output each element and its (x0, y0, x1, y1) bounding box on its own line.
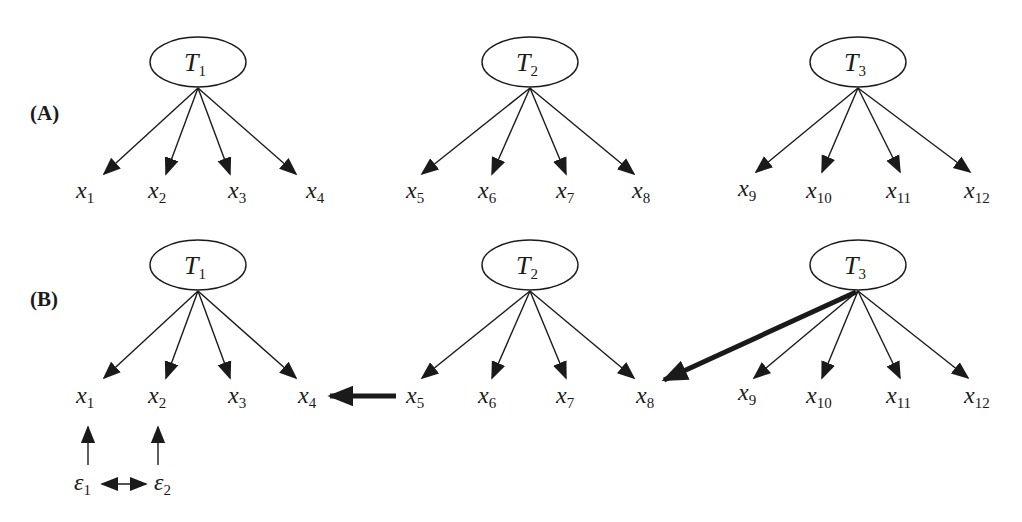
latent-factor-t2-b: T2 (482, 240, 578, 290)
loadings-t3-b (754, 291, 968, 378)
svg-text:x9: x9 (737, 379, 756, 408)
indicators-t2-b: x5 x6 x7 x8 (405, 382, 654, 411)
panel-label-a: (A) (30, 101, 59, 125)
svg-text:x5: x5 (405, 382, 424, 411)
latent-factor-t2-a: T2 (482, 37, 578, 87)
svg-text:x1: x1 (75, 177, 94, 206)
svg-text:x8: x8 (631, 177, 650, 206)
latent-factor-t3-a: T3 (810, 37, 906, 87)
svg-text:x9: x9 (737, 175, 756, 204)
loadings-t1-b (104, 291, 296, 378)
panel-label-b: (B) (30, 287, 58, 311)
loadings-t3-a (756, 88, 970, 172)
indicators-t1-b: x1 x2 x3 x4 (75, 382, 317, 411)
indicators-t1-a: x1 x2 x3 x4 (75, 177, 325, 206)
svg-text:x6: x6 (477, 177, 497, 206)
svg-text:x4: x4 (297, 382, 317, 411)
svg-text:ε1: ε1 (74, 469, 91, 498)
svg-text:x3: x3 (227, 382, 246, 411)
latent-factor-t1-b: T1 (150, 240, 246, 290)
svg-text:x11: x11 (885, 177, 911, 206)
svg-text:x12: x12 (963, 177, 990, 206)
factor-model-diagram: (A) T1 x1 x2 x3 x4 T2 x5 x6 x7 x8 T3 (0, 0, 1022, 522)
svg-text:x10: x10 (805, 177, 832, 206)
error-paths (88, 427, 158, 484)
svg-text:x1: x1 (75, 382, 94, 411)
svg-text:x2: x2 (147, 382, 166, 411)
indicators-t3-b: x9 x10 x11 x12 (737, 379, 990, 411)
svg-text:x6: x6 (477, 382, 497, 411)
svg-text:x3: x3 (227, 177, 246, 206)
svg-text:x7: x7 (555, 382, 575, 411)
indicators-t3-a: x9 x10 x11 x12 (737, 175, 990, 206)
svg-text:x2: x2 (147, 177, 166, 206)
loadings-t1-a (104, 88, 296, 174)
svg-text:x7: x7 (555, 177, 575, 206)
svg-text:x8: x8 (635, 382, 654, 411)
latent-factor-t1-a: T1 (150, 37, 246, 87)
loadings-t2-a (422, 88, 634, 174)
latent-factor-t3-b: T3 (810, 240, 906, 290)
svg-text:x11: x11 (885, 382, 911, 411)
indicators-t2-a: x5 x6 x7 x8 (405, 177, 650, 206)
loadings-t2-b (422, 291, 634, 378)
svg-text:x5: x5 (405, 177, 424, 206)
svg-text:x4: x4 (305, 177, 325, 206)
svg-text:ε2: ε2 (154, 469, 171, 498)
svg-text:x12: x12 (963, 382, 990, 411)
svg-text:x10: x10 (805, 382, 832, 411)
